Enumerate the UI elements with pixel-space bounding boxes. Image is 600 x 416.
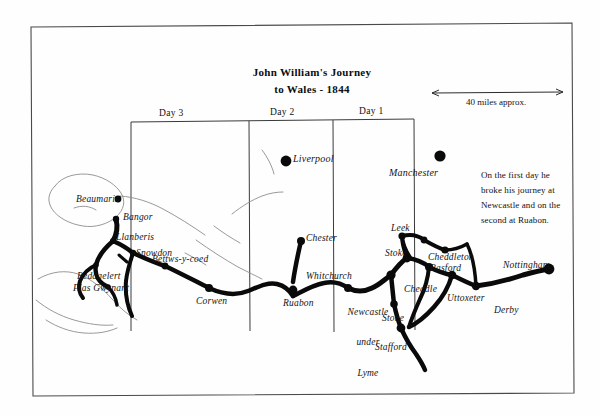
label-chester: Chester	[306, 233, 337, 243]
map-title-line1: John William's Journey	[232, 64, 392, 81]
marker-manchester	[434, 150, 445, 161]
marker-beddgelert	[93, 262, 99, 268]
day-label-2: Day 2	[270, 107, 294, 117]
label-bettws: Bettws-y-coed	[152, 254, 208, 264]
label-manchester: Manchester	[389, 168, 438, 179]
label-cheadle: Cheadle	[404, 284, 437, 294]
route-llanberis-snowdon	[113, 241, 133, 253]
label-stone: Stone	[382, 313, 404, 323]
label-llanberis: Llanberis	[116, 232, 154, 242]
marker-ruabon	[289, 286, 298, 295]
label-uttoxeter: Uttoxeter	[447, 293, 485, 303]
label-beaumaris: Beaumaris	[76, 194, 119, 204]
route-basford-derby	[467, 244, 476, 286]
route-derby-nottingham	[476, 269, 549, 286]
journey-note-line-1: On the first day he	[481, 168, 573, 183]
label-basford: Basford	[430, 263, 461, 273]
scale-label: 40 miles approx.	[466, 97, 526, 107]
marker-cheddleton	[421, 237, 428, 244]
label-corwen: Corwen	[196, 296, 227, 306]
marker-chester	[297, 237, 305, 245]
day-label-1: Day 1	[359, 106, 383, 116]
marker-leek	[398, 232, 405, 239]
label-stoke: Stoke	[385, 248, 407, 258]
route-corwen-ruabon	[209, 284, 293, 296]
label-ruabon: Ruabon	[283, 298, 314, 308]
marker-liverpool	[281, 156, 292, 167]
marker-corwen	[205, 284, 213, 292]
label-stafford: Stafford	[375, 342, 407, 352]
label-leek: Leek	[391, 223, 410, 233]
journey-note-line-2: broke his journey at	[481, 183, 573, 198]
label-liverpool: Liverpool	[293, 154, 334, 165]
label-cheddleton: Cheddleton	[428, 252, 474, 262]
map-title-line2: to Wales - 1844	[232, 81, 392, 98]
journey-note: On the first day he broke his journey at…	[481, 168, 573, 227]
map-title: John William's Journey to Wales - 1844	[232, 64, 392, 97]
route-ruabon-chester	[293, 241, 301, 282]
map-canvas: John William's Journey to Wales - 1844 4…	[0, 0, 600, 416]
journey-note-line-3: Newcastle and on the	[481, 198, 573, 213]
route-bettws-corwen	[165, 266, 209, 288]
journey-note-line-4: second at Ruabon.	[481, 213, 573, 228]
marker-bangor	[113, 216, 119, 222]
day-label-3: Day 3	[159, 108, 183, 118]
label-beddgelert: Beddgelert	[77, 271, 121, 281]
marker-derby	[472, 282, 480, 290]
marker-stafford	[397, 324, 406, 333]
label-derby: Derby	[494, 305, 519, 315]
label-whitchurch: Whitchurch	[306, 271, 352, 281]
route-uttoxeter-south	[409, 275, 452, 327]
label-plas-gwynant: Plas Gwynant	[73, 283, 129, 293]
label-bangor: Bangor	[123, 212, 153, 222]
marker-newcastle	[386, 270, 395, 279]
route-snowdon-tick	[119, 255, 127, 262]
label-nottingham: Nottingham	[503, 260, 550, 270]
label-newcastle-line-3: Lyme	[340, 368, 396, 378]
